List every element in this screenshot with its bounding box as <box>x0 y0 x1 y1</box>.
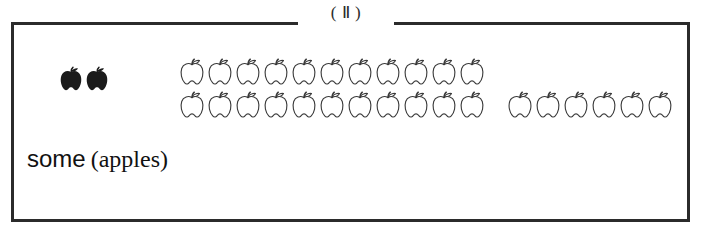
apple-outline-icon <box>374 89 402 121</box>
apple-outline-icon <box>430 56 458 88</box>
quantifier-word: some <box>27 145 86 172</box>
figure-frame <box>11 22 690 222</box>
apple-outline-icon <box>534 89 562 121</box>
apple-outline-icon <box>318 56 346 88</box>
apple-outline-icon <box>402 56 430 88</box>
apple-outline-icon <box>262 56 290 88</box>
noun-word: (apples) <box>91 146 168 172</box>
outlined-apple-block <box>178 56 486 121</box>
apple-outline-icon <box>290 56 318 88</box>
figure-panel: ( Ⅱ ) some(apples) <box>0 0 701 238</box>
apple-outline-icon <box>346 56 374 88</box>
quantifier-label: some(apples) <box>27 144 168 177</box>
apple-outline-icon <box>234 56 262 88</box>
apple-outline-icon <box>262 89 290 121</box>
apple-outline-icon <box>402 89 430 121</box>
apple-outline-icon <box>206 89 234 121</box>
apple-outline-icon <box>374 56 402 88</box>
filled-apple-set <box>58 64 110 94</box>
apple-outline-icon <box>646 89 674 121</box>
apple-filled-icon <box>84 64 110 94</box>
apple-row <box>506 89 674 121</box>
apple-outline-icon <box>318 89 346 121</box>
apple-outline-icon <box>290 89 318 121</box>
apple-outline-icon <box>346 89 374 121</box>
apple-outline-icon <box>430 89 458 121</box>
figure-caption: ( Ⅱ ) <box>298 0 394 26</box>
outlined-apple-remainder <box>506 89 674 121</box>
apple-outline-icon <box>206 56 234 88</box>
apple-outline-icon <box>562 89 590 121</box>
apple-row <box>58 64 110 94</box>
apple-outline-icon <box>458 56 486 88</box>
apple-outline-icon <box>178 89 206 121</box>
apple-filled-icon <box>58 64 84 94</box>
apple-outline-icon <box>590 89 618 121</box>
apple-outline-icon <box>506 89 534 121</box>
apple-outline-icon <box>178 56 206 88</box>
apple-outline-icon <box>618 89 646 121</box>
apple-outline-icon <box>234 89 262 121</box>
apple-outline-icon <box>458 89 486 121</box>
apple-row <box>178 89 486 121</box>
apple-row <box>178 56 486 88</box>
